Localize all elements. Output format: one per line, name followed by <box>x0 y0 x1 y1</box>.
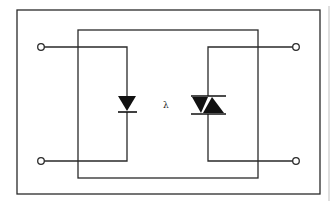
input-circuit <box>38 44 137 165</box>
output-circuit <box>191 44 299 165</box>
output-terminal-bottom <box>293 158 300 165</box>
triac-icon <box>191 96 226 114</box>
optocoupler-diagram: λ <box>0 0 333 201</box>
input-terminal-top <box>38 44 45 51</box>
input-terminal-bottom <box>38 158 45 165</box>
led-diode-icon <box>118 96 137 112</box>
light-label: λ <box>163 100 169 110</box>
output-terminal-top <box>293 44 300 51</box>
